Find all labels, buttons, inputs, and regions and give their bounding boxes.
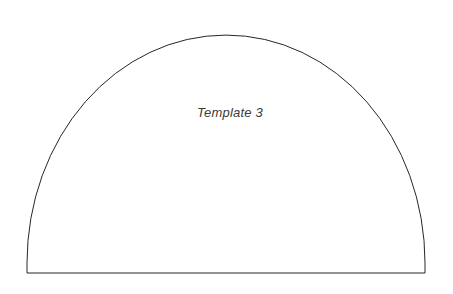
template-shape-svg: Template 3 <box>0 0 453 294</box>
semicircular-arch-outline[interactable] <box>27 35 425 273</box>
shape-label-text: Template 3 <box>197 105 263 120</box>
template-canvas: Template 3 <box>0 0 453 294</box>
